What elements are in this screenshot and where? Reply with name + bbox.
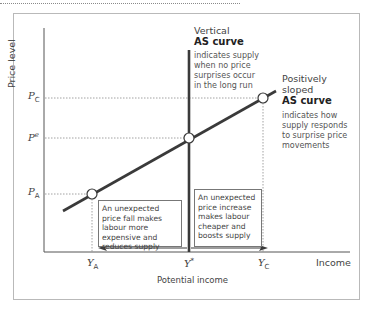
tick-ya-base: Y: [87, 257, 94, 268]
vertical-as-title-1: Vertical: [194, 25, 260, 36]
tick-ystar-base: Y: [184, 258, 191, 269]
tick-pc-base: P: [28, 90, 35, 101]
tick-pe-sup: e: [35, 131, 39, 139]
point-e: [184, 133, 194, 143]
tick-pe-base: P: [28, 132, 35, 143]
sloped-as-title-3: AS curve: [282, 95, 354, 107]
tick-pe: Pe: [28, 131, 39, 143]
potential-income-label: Potential income: [157, 275, 228, 285]
tick-pa-sub: A: [35, 192, 40, 200]
vertical-as-description: indicates supply when no price surprises…: [194, 51, 260, 91]
tick-ystar-sup: *: [191, 257, 195, 265]
tick-ystar: Y*: [184, 257, 194, 269]
point-a: [87, 189, 97, 199]
x-axis-label: Income: [316, 257, 351, 268]
sloped-as-title-1: Positively: [282, 73, 354, 84]
vertical-as-annotation: Vertical AS curve indicates supply when …: [194, 25, 260, 91]
sloped-as-annotation: Positively sloped AS curve indicates how…: [282, 73, 354, 151]
vertical-as-title-2: AS curve: [194, 36, 260, 47]
sloped-as-description: indicates how supply responds to surpris…: [282, 111, 354, 151]
point-c: [258, 93, 268, 103]
price-increase-box: An unexpected price increase makes labou…: [194, 189, 262, 247]
tick-ya-sub: A: [94, 263, 99, 271]
tick-pc: PC: [28, 90, 40, 104]
tick-pa: PA: [28, 186, 40, 200]
sloped-as-title-2: sloped: [282, 84, 354, 95]
y-axis-label: Price level: [6, 39, 17, 88]
tick-pc-sub: C: [35, 96, 40, 104]
tick-yc: YC: [258, 257, 270, 271]
tick-yc-base: Y: [258, 257, 265, 268]
price-fall-box: An unexpected price fall makes labour mo…: [98, 200, 182, 247]
tick-yc-sub: C: [265, 263, 270, 271]
tick-pa-base: P: [28, 186, 35, 197]
tick-ya: YA: [87, 257, 98, 271]
